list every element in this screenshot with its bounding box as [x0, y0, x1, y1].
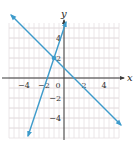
intersection-point: [52, 56, 57, 61]
x-tick-label: −4: [18, 81, 30, 90]
x-tick-label: 4: [101, 81, 106, 90]
y-tick-label: −4: [49, 114, 61, 123]
coordinate-plane: −4−202442−2−4 x y: [0, 0, 137, 148]
series-line-2: [11, 15, 121, 125]
x-axis-title: x: [127, 72, 133, 83]
points: [52, 56, 57, 61]
x-tick-label: 0: [55, 81, 60, 90]
y-axis-title: y: [60, 8, 67, 19]
y-tick-label: −2: [49, 94, 61, 103]
